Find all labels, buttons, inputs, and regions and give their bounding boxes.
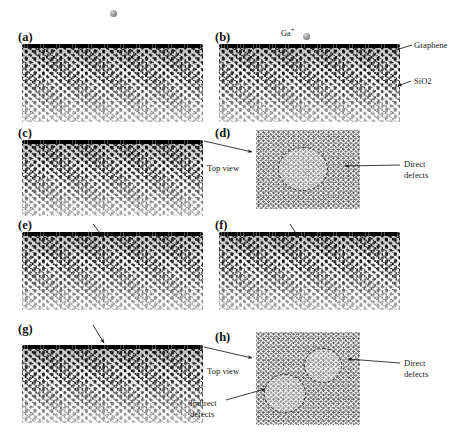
topview-arrow-d xyxy=(204,141,252,152)
direct-defect-circle-h xyxy=(304,348,342,383)
sio2-substrate-a xyxy=(22,48,203,122)
indirect-defects-label-h: Indirect defects xyxy=(190,398,217,419)
ga-ion-label: Ga+ xyxy=(281,26,295,38)
sio2-substrate-b xyxy=(219,48,400,122)
sio2-substrate-e xyxy=(22,236,203,310)
direct-defects-label-d: Direct defects xyxy=(404,159,428,180)
sio2-substrate-g xyxy=(22,349,203,423)
ga-ion-species: Ga xyxy=(281,29,291,38)
top-view-label-h: Top view xyxy=(207,366,239,377)
panel-c-crosssection xyxy=(22,140,203,216)
direct-defect-circle-d xyxy=(278,147,328,191)
ga-ion-sphere-a xyxy=(110,10,117,17)
ga-ion-charge: + xyxy=(291,26,295,34)
panel-label-f: (f) xyxy=(215,218,228,233)
sio2-substrate-f xyxy=(219,236,400,310)
panel-label-h: (h) xyxy=(215,330,230,345)
panel-a-crosssection xyxy=(22,44,203,122)
topview-arrow-h xyxy=(204,347,252,358)
panel-label-b: (b) xyxy=(215,30,230,45)
panel-g-crosssection xyxy=(22,345,203,423)
ga-ion-sphere-b xyxy=(303,33,310,40)
figure-root: (a) (b) Ga+ Graphene SiO2 (c) (d) Top vi… xyxy=(0,0,459,441)
panel-h-topview xyxy=(256,332,360,425)
indirect-defect-circle-h xyxy=(264,374,306,413)
graphene-leader-line xyxy=(399,45,412,49)
panel-e-crosssection xyxy=(22,232,203,310)
graphene-annotation: Graphene xyxy=(414,40,447,51)
panel-f-crosssection xyxy=(219,232,400,310)
panel-label-a: (a) xyxy=(18,30,33,45)
ion-impact-arrow-g xyxy=(93,325,104,343)
sio2-annotation: SiO2 xyxy=(414,76,432,87)
panel-label-c: (c) xyxy=(18,126,32,141)
direct-defects-label-h: Direct defects xyxy=(404,358,428,379)
sio2-substrate-c xyxy=(22,144,203,216)
panel-d-topview xyxy=(256,130,360,209)
panel-label-g: (g) xyxy=(18,322,33,337)
top-view-label-d: Top view xyxy=(207,163,239,174)
panel-b-crosssection xyxy=(219,44,400,122)
panel-label-e: (e) xyxy=(18,218,32,233)
panel-label-d: (d) xyxy=(215,126,230,141)
